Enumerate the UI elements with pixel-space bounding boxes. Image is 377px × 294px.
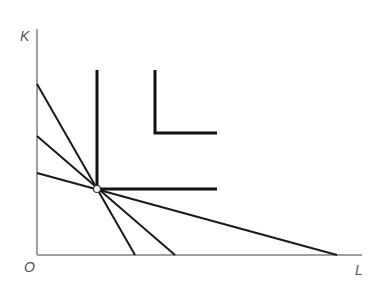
x-axis-label: L	[355, 262, 363, 278]
medium-isocost-line	[37, 136, 175, 255]
upper-isoquant	[155, 70, 217, 133]
steep-isocost-line	[37, 84, 135, 255]
flat-isocost-line	[37, 173, 337, 255]
y-axis-label: K	[20, 28, 29, 44]
origin-label: O	[24, 259, 35, 275]
lower-isoquant	[97, 70, 217, 189]
isoquant-diagram	[0, 0, 377, 294]
equilibrium-point	[94, 186, 101, 193]
